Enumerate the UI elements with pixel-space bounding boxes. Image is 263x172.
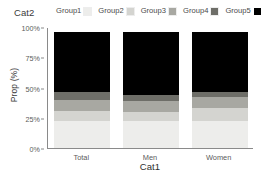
legend-entry-group4[interactable]: Group4 [183, 6, 218, 16]
bar-segment-group3[interactable] [192, 97, 248, 108]
y-tick-mark [41, 88, 44, 89]
legend-entry-label: Group4 [183, 6, 208, 16]
legend-entry-label: Group3 [141, 6, 166, 16]
bar-segment-group1[interactable] [192, 121, 248, 148]
legend-entry-label: Group1 [56, 6, 81, 16]
y-tick-label: 100% [22, 24, 40, 33]
y-tick-label: 75% [26, 54, 40, 63]
bar-segment-group1[interactable] [54, 121, 110, 148]
legend-entry-group5[interactable]: Group5 [225, 6, 260, 16]
bar-segment-group2[interactable] [123, 112, 179, 122]
bar-segment-group5[interactable] [54, 32, 110, 93]
y-tick-mark [41, 118, 44, 119]
bar-stack [123, 32, 179, 148]
bar-segment-group1[interactable] [123, 121, 179, 148]
plot-area: Prop (%) 0%25%50%75%100% TotalMenWomen C… [0, 22, 263, 172]
bar-segment-group5[interactable] [123, 32, 179, 95]
bar-series-container [48, 28, 253, 148]
y-tick-mark [41, 28, 44, 29]
plot-panel [47, 28, 253, 149]
y-tick-label: 0% [30, 145, 40, 154]
y-tick-label: 50% [26, 84, 40, 93]
bar-group-women[interactable] [192, 28, 248, 148]
legend-swatch-group3 [169, 8, 176, 15]
y-tick-mark [41, 149, 44, 150]
bar-group-total[interactable] [54, 28, 110, 148]
bar-segment-group3[interactable] [123, 101, 179, 112]
y-axis-ticks: 0%25%50%75%100% [16, 22, 44, 148]
legend: Cat2 Group1Group2Group3Group4Group5 [0, 6, 263, 22]
y-tick-label: 25% [26, 114, 40, 123]
legend-swatch-group1 [84, 8, 91, 15]
bar-stack [54, 32, 110, 148]
legend-entry-label: Group5 [225, 6, 250, 16]
legend-entry-group2[interactable]: Group2 [98, 6, 133, 16]
bar-segment-group2[interactable] [192, 108, 248, 121]
bar-stack [192, 32, 248, 148]
x-axis-label: Cat1 [47, 161, 253, 172]
legend-items: Group1Group2Group3Group4Group5 [56, 6, 263, 16]
bar-segment-group5[interactable] [192, 32, 248, 93]
legend-entry-group3[interactable]: Group3 [141, 6, 176, 16]
legend-entry-group1[interactable]: Group1 [56, 6, 91, 16]
y-tick-mark [41, 58, 44, 59]
legend-swatch-group4 [211, 8, 218, 15]
bar-segment-group3[interactable] [54, 100, 110, 111]
legend-swatch-group2 [127, 8, 134, 15]
legend-title: Cat2 [14, 7, 34, 18]
bar-segment-group4[interactable] [54, 92, 110, 99]
legend-swatch-group5 [254, 8, 261, 15]
bar-segment-group2[interactable] [54, 111, 110, 122]
legend-entry-label: Group2 [98, 6, 123, 16]
bar-group-men[interactable] [123, 28, 179, 148]
